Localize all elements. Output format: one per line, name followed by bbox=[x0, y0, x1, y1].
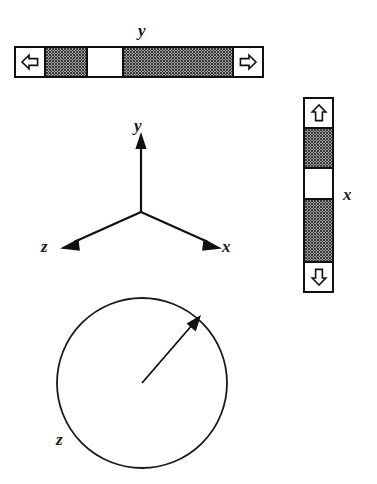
axis-label-x: x bbox=[222, 238, 231, 255]
scroll-left-button[interactable] bbox=[16, 48, 46, 76]
rotation-dial[interactable] bbox=[54, 293, 234, 475]
orientation-control-figure: y x bbox=[0, 0, 377, 484]
scroll-thumb[interactable] bbox=[86, 46, 124, 78]
vertical-scrollbar-label: x bbox=[343, 186, 352, 203]
scroll-up-button[interactable] bbox=[305, 99, 332, 129]
scroll-track-after[interactable] bbox=[305, 200, 332, 261]
arrow-down-icon bbox=[309, 267, 329, 287]
arrow-left-icon bbox=[20, 52, 40, 72]
rotation-dial-drawing[interactable] bbox=[54, 293, 234, 475]
rotation-dial-label: z bbox=[56, 431, 63, 448]
horizontal-scrollbar-label: y bbox=[138, 22, 146, 39]
scroll-down-button[interactable] bbox=[305, 261, 332, 291]
scroll-track-after[interactable] bbox=[124, 48, 232, 76]
scroll-right-button[interactable] bbox=[232, 48, 262, 76]
axis-x-arrow bbox=[141, 212, 222, 251]
scroll-thumb[interactable] bbox=[303, 167, 334, 200]
arrow-up-icon bbox=[309, 103, 329, 123]
scroll-track-before[interactable] bbox=[46, 48, 86, 76]
vertical-scrollbar[interactable] bbox=[303, 97, 334, 293]
scroll-track-before[interactable] bbox=[305, 129, 332, 167]
axis-label-z: z bbox=[41, 238, 48, 255]
axis-y-arrow bbox=[135, 132, 146, 212]
axis-z-arrow bbox=[60, 212, 141, 251]
horizontal-scrollbar[interactable] bbox=[14, 46, 264, 78]
axis-label-y: y bbox=[134, 117, 142, 134]
arrow-right-icon bbox=[238, 52, 258, 72]
